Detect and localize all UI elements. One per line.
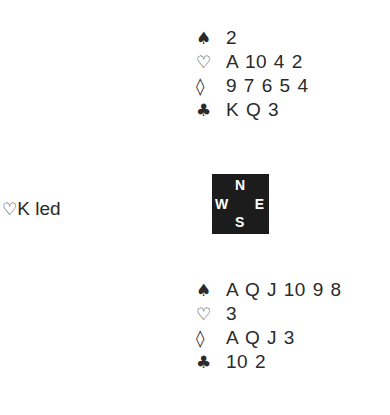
spade-icon: ♠ bbox=[196, 26, 226, 50]
north-clubs-row: ♣ K Q 3 bbox=[196, 98, 308, 122]
compass-east: E bbox=[255, 197, 264, 211]
south-clubs-row: ♣ 10 2 bbox=[196, 350, 342, 374]
north-clubs-cards: K Q 3 bbox=[226, 98, 279, 122]
south-hearts-cards: 3 bbox=[226, 302, 237, 326]
north-hearts-cards: A 10 4 2 bbox=[226, 50, 303, 74]
diamond-icon: ◊ bbox=[196, 74, 226, 98]
compass-west: W bbox=[215, 197, 228, 211]
opening-lead-text: K led bbox=[17, 198, 60, 219]
south-spades-cards: A Q J 10 9 8 bbox=[226, 278, 342, 302]
heart-icon: ♡ bbox=[196, 50, 226, 74]
north-diamonds-cards: 9 7 6 5 4 bbox=[226, 74, 308, 98]
opening-lead: ♡K led bbox=[2, 197, 61, 221]
heart-icon: ♡ bbox=[196, 302, 226, 326]
north-spades-cards: 2 bbox=[226, 26, 237, 50]
compass-south: S bbox=[235, 215, 244, 229]
club-icon: ♣ bbox=[196, 350, 226, 374]
south-diamonds-row: ◊ A Q J 3 bbox=[196, 326, 342, 350]
south-hearts-row: ♡ 3 bbox=[196, 302, 342, 326]
south-spades-row: ♠ A Q J 10 9 8 bbox=[196, 278, 342, 302]
spade-icon: ♠ bbox=[196, 278, 226, 302]
compass-north: N bbox=[235, 178, 245, 192]
north-hand: ♠ 2 ♡ A 10 4 2 ◊ 9 7 6 5 4 ♣ K Q 3 bbox=[196, 26, 308, 122]
south-clubs-cards: 10 2 bbox=[226, 350, 266, 374]
north-hearts-row: ♡ A 10 4 2 bbox=[196, 50, 308, 74]
diamond-icon: ◊ bbox=[196, 326, 226, 350]
north-spades-row: ♠ 2 bbox=[196, 26, 308, 50]
south-hand: ♠ A Q J 10 9 8 ♡ 3 ◊ A Q J 3 ♣ 10 2 bbox=[196, 278, 342, 374]
north-diamonds-row: ◊ 9 7 6 5 4 bbox=[196, 74, 308, 98]
club-icon: ♣ bbox=[196, 98, 226, 122]
heart-icon: ♡ bbox=[2, 199, 17, 219]
south-diamonds-cards: A Q J 3 bbox=[226, 326, 295, 350]
compass-box: N W E S bbox=[212, 174, 269, 234]
